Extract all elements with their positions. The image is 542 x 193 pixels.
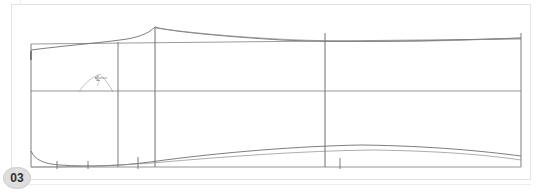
sheer-upper-curve [31,27,521,50]
page-number-badge[interactable]: 03 [3,167,31,189]
keel-curves [31,145,521,167]
frame-horizontals [31,39,521,167]
station-verticals [31,27,521,167]
keel-outer-curve [31,145,521,166]
footer-rule [11,184,531,185]
sheer-curves [31,27,521,50]
tick-marks [31,51,340,169]
drawing-viewer: 7 03 [0,0,542,193]
keel-inner-curve [31,150,521,167]
technical-drawing [0,0,542,193]
callout-label: 7 [96,79,100,88]
